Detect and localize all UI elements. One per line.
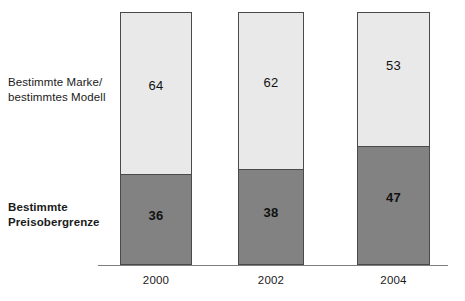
x-axis-tick-2002: 2002 xyxy=(238,274,304,286)
bar-2000-segment-lower: 36 xyxy=(121,174,191,264)
stacked-bar-chart: Bestimmte Marke/ bestimmtes Modell Besti… xyxy=(0,0,465,301)
bar-2000-segment-upper: 64 xyxy=(121,13,191,174)
bar-2004-segment-lower: 47 xyxy=(358,146,429,264)
bar-2002-segment-upper: 62 xyxy=(239,13,303,169)
x-axis-tick-2004: 2004 xyxy=(357,274,430,286)
bar-2000-upper-value: 64 xyxy=(149,78,164,93)
bar-stack-2002: 62 38 xyxy=(238,12,304,265)
x-axis-tick-2000: 2000 xyxy=(120,274,192,286)
bar-2004-lower-value: 47 xyxy=(386,190,401,205)
bar-2000: 64 36 xyxy=(120,12,192,265)
x-axis-line xyxy=(98,265,448,266)
bar-2004-upper-value: 53 xyxy=(386,58,401,73)
bar-2002-upper-value: 62 xyxy=(264,75,279,90)
bar-2004-segment-upper: 53 xyxy=(358,13,429,146)
plot-area: 64 36 62 38 53 xyxy=(0,0,465,301)
bar-2002: 62 38 xyxy=(238,12,304,265)
bar-stack-2000: 64 36 xyxy=(120,12,192,265)
bar-2000-lower-value: 36 xyxy=(149,208,164,223)
bar-2002-segment-lower: 38 xyxy=(239,169,303,264)
bar-stack-2004: 53 47 xyxy=(357,12,430,265)
bar-2002-lower-value: 38 xyxy=(264,205,279,220)
bar-2004: 53 47 xyxy=(357,12,430,265)
